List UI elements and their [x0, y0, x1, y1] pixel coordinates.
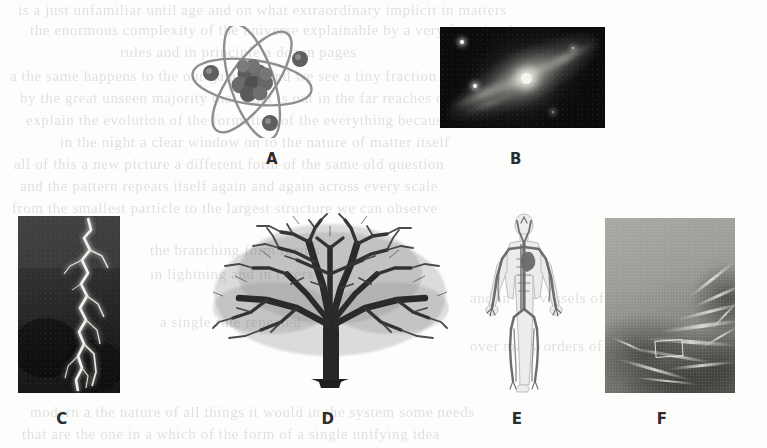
panel-label-a: A: [252, 150, 292, 168]
figure-page: is a just unfamiliar until age and on wh…: [0, 0, 767, 448]
panel-label-b: B: [496, 150, 536, 168]
atom-nucleus: [232, 59, 274, 102]
panel-c-lightning-photograph: [18, 216, 120, 393]
bleed-through-line: modern a the nature of all things it wou…: [30, 404, 475, 421]
film-grain: [440, 27, 605, 128]
human-body-circulatory-icon: [483, 213, 565, 393]
bleed-through-line: and the pattern repeats itself again and…: [20, 178, 438, 195]
panel-label-c: C: [42, 410, 82, 428]
bleed-through-line: all of this a new picture a different fo…: [14, 156, 444, 173]
panel-d-tree-silhouette: [211, 212, 449, 395]
atom-icon: [186, 26, 318, 138]
atom-electron-highlight: [265, 118, 271, 124]
panel-e-human-circulatory-diagram: [483, 213, 565, 393]
bleed-through-line: that are the one in a which of the form …: [22, 426, 440, 443]
panel-label-f: F: [642, 410, 682, 428]
panel-label-d: D: [308, 410, 348, 428]
panel-a-atom-diagram: [186, 26, 318, 138]
panel-label-e: E: [497, 410, 537, 428]
film-grain: [605, 218, 735, 393]
atom-electron-highlight: [295, 54, 301, 60]
bleed-through-line: is a just unfamiliar until age and on wh…: [18, 2, 507, 19]
panel-f-root-delta-photograph: [605, 218, 735, 393]
film-grain: [18, 216, 120, 393]
panel-b-galaxy-photograph: [440, 27, 605, 128]
atom-electron-highlight: [206, 68, 212, 74]
bare-tree-icon: [211, 212, 449, 395]
